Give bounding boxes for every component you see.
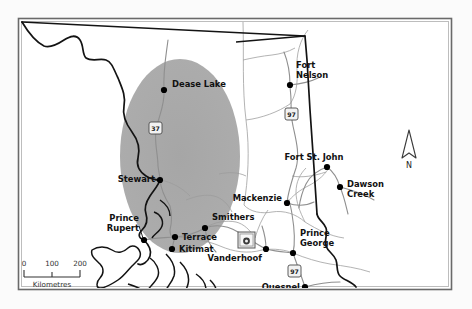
city-dot-mackenzie <box>284 200 290 206</box>
city-label-terrace: Terrace <box>182 232 217 242</box>
city-dot-fort-st-john <box>324 164 330 170</box>
city-dot-terrace <box>172 234 178 240</box>
city-label-prince-rupert-line2: Rupert <box>107 223 139 233</box>
city-dot-vanderhoof <box>263 246 269 252</box>
city-label-dawson-creek-line1: Dawson <box>347 179 384 189</box>
city-dot-dease-lake <box>161 87 167 93</box>
scale-tick-0: 0 <box>22 259 27 268</box>
city-label-dease-lake: Dease Lake <box>172 79 226 89</box>
north-arrow-label: N <box>406 161 412 170</box>
highway-shield-97-south-number: 97 <box>290 268 299 275</box>
highway-shield-97-north: 97 <box>285 108 298 120</box>
city-label-stewart: Stewart <box>118 174 155 184</box>
highway-shield-97-north-number: 97 <box>287 111 296 118</box>
city-label-mackenzie: Mackenzie <box>233 193 283 203</box>
city-dot-smithers <box>202 225 208 231</box>
highway-shield-97-south: 97 <box>288 265 301 277</box>
scale-bar-caption: Kilometres <box>33 280 72 289</box>
city-label-fort-nelson-line2: Nelson <box>296 70 328 80</box>
map-figure: 37 97 97 <box>0 0 472 309</box>
city-label-vanderhoof: Vanderhoof <box>207 253 262 263</box>
city-dot-fort-nelson <box>287 82 293 88</box>
city-dot-stewart <box>157 177 163 183</box>
city-dot-dawson-creek <box>337 184 343 190</box>
facility-site-marker <box>238 232 255 248</box>
city-label-fort-st-john: Fort St. John <box>284 152 343 162</box>
scale-tick-100: 100 <box>45 259 59 268</box>
city-label-dawson-creek-line2: Creek <box>347 189 375 199</box>
highway-shield-37: 37 <box>149 122 162 134</box>
scale-tick-200: 200 <box>73 259 87 268</box>
city-dot-prince-george <box>290 250 296 256</box>
map-canvas: 37 97 97 <box>0 0 472 309</box>
city-label-fort-nelson-line1: Fort <box>296 60 315 70</box>
city-label-smithers: Smithers <box>212 212 254 222</box>
city-label-prince-george-line1: Prince <box>300 228 330 238</box>
city-label-prince-george-line2: George <box>300 238 334 248</box>
city-dot-prince-rupert <box>141 237 147 243</box>
highway-shield-37-number: 37 <box>151 125 160 132</box>
city-label-prince-rupert-line1: Prince <box>109 213 139 223</box>
city-dot-kitimat <box>169 246 175 252</box>
